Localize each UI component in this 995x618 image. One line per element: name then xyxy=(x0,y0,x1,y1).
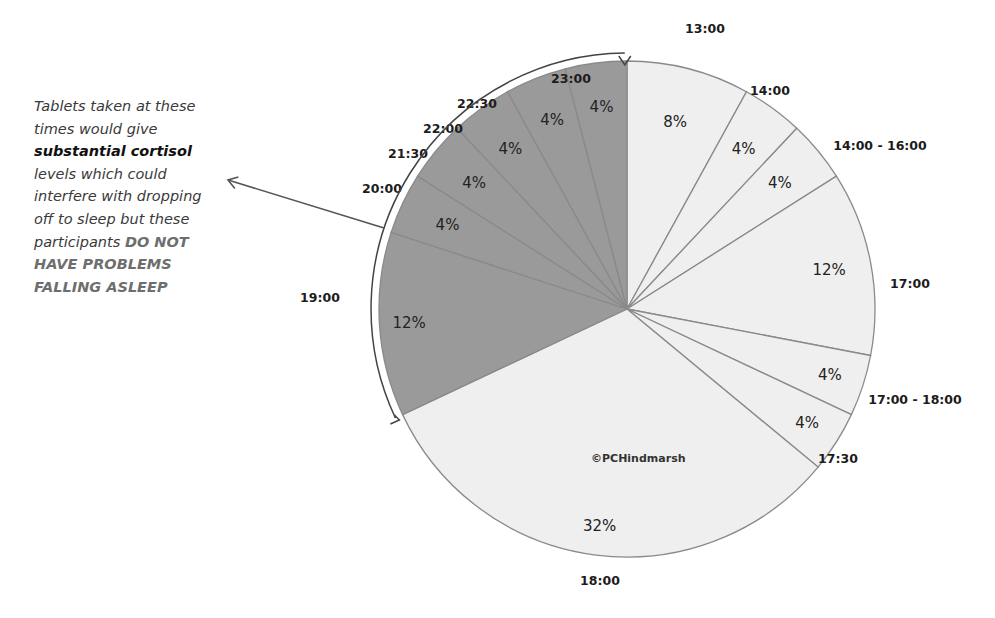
annotation-line: off to sleep but these xyxy=(34,208,274,231)
data-label: 4% xyxy=(732,140,756,158)
category-label: 13:00 xyxy=(685,21,725,36)
category-label: 17:00 xyxy=(890,276,930,291)
annotation-caps: FALLING ASLEEP xyxy=(34,276,274,299)
data-label: 4% xyxy=(818,366,842,384)
data-label: 8% xyxy=(663,113,687,131)
category-label: 18:00 xyxy=(580,573,620,588)
data-label: 4% xyxy=(795,414,819,432)
data-label: 4% xyxy=(590,98,614,116)
watermark: ©PCHindmarsh xyxy=(591,452,686,465)
annotation-caps: DO NOT xyxy=(125,234,189,250)
annotation-line: times would give xyxy=(34,118,274,141)
category-label: 22:00 xyxy=(423,121,463,136)
data-label: 4% xyxy=(540,111,564,129)
category-label: 20:00 xyxy=(362,181,402,196)
data-label: 12% xyxy=(393,314,426,332)
annotation-segment: participants xyxy=(34,234,125,250)
data-label: 4% xyxy=(436,216,460,234)
category-label: 19:00 xyxy=(300,290,340,305)
category-label: 21:30 xyxy=(388,146,428,161)
annotation-line: interfere with dropping xyxy=(34,185,274,208)
category-label: 23:00 xyxy=(551,71,591,86)
annotation-line: levels which could xyxy=(34,163,274,186)
category-label: 17:30 xyxy=(818,451,858,466)
category-label: 14:00 xyxy=(750,83,790,98)
category-label: 22:30 xyxy=(457,96,497,111)
data-label: 4% xyxy=(499,140,523,158)
data-label: 12% xyxy=(813,261,846,279)
data-label: 4% xyxy=(462,174,486,192)
category-label: 17:00 - 18:00 xyxy=(868,392,962,407)
data-label: 4% xyxy=(768,174,792,192)
data-label: 32% xyxy=(583,517,616,535)
category-label: 14:00 - 16:00 xyxy=(833,138,927,153)
annotation-line: participants DO NOT xyxy=(34,231,274,254)
annotation-line: Tablets taken at these xyxy=(34,95,274,118)
annotation-emphasis: substantial cortisol xyxy=(34,140,274,163)
pie-chart: 8%4%4%12%4%4%32%12%4%4%4%4%4% 13:0014:00… xyxy=(0,0,995,618)
annotation-text: Tablets taken at these times would give … xyxy=(34,95,274,298)
annotation-caps: HAVE PROBLEMS xyxy=(34,253,274,276)
